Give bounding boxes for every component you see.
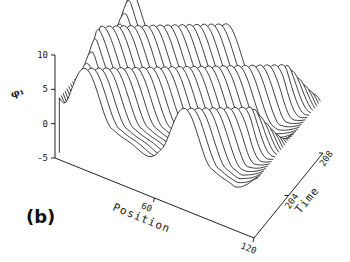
z-axis-label: φ₁	[9, 85, 25, 100]
x-tick-label: 120	[239, 241, 258, 256]
z-tick-label: -5	[37, 153, 48, 163]
x-tick-mark	[154, 198, 155, 202]
z-tick-label: 5	[43, 84, 48, 94]
z-tick-label: 0	[43, 119, 48, 129]
panel-label: (b)	[26, 206, 55, 227]
z-ticks: 1050-5	[37, 50, 55, 163]
surface-traces	[59, 0, 320, 235]
x-tick-mark	[253, 238, 254, 242]
z-tick-label: 10	[37, 50, 48, 60]
